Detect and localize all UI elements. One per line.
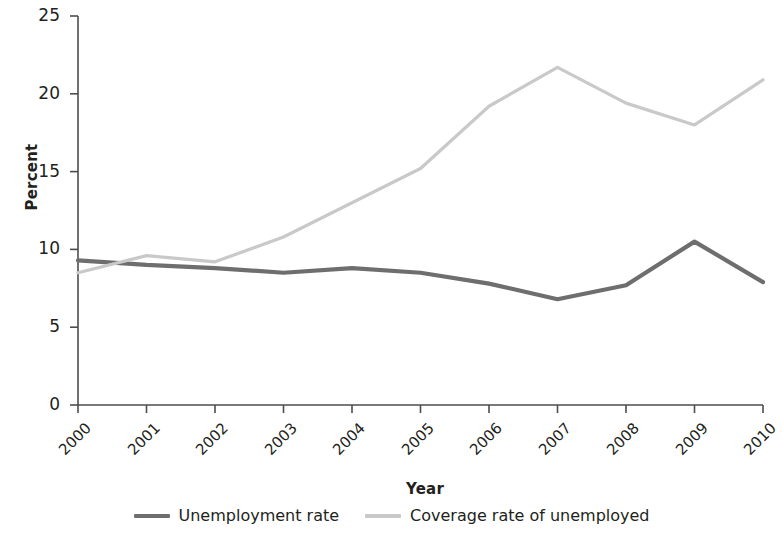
legend-swatch-coverage-rate	[365, 514, 401, 518]
chart-legend: Unemployment rate Coverage rate of unemp…	[0, 508, 783, 524]
legend-swatch-unemployment-rate	[134, 514, 170, 518]
y-axis-tick-label: 10	[14, 238, 60, 258]
y-axis-ticks	[70, 16, 78, 405]
y-axis-tick-label: 5	[14, 316, 60, 336]
line-chart: Percent 0510152025 200020012002200320042…	[0, 0, 783, 543]
plot-area	[0, 0, 783, 500]
legend-item-coverage-rate: Coverage rate of unemployed	[365, 508, 649, 524]
series-line-unemployment-rate	[78, 242, 763, 300]
x-axis-ticks	[78, 405, 763, 413]
y-axis-tick-label: 15	[14, 161, 60, 181]
x-axis-title: Year	[375, 480, 475, 498]
data-series-group	[78, 67, 763, 299]
y-axis-tick-label: 0	[14, 394, 60, 414]
legend-label-coverage-rate: Coverage rate of unemployed	[410, 508, 649, 524]
legend-item-unemployment-rate: Unemployment rate	[134, 508, 340, 524]
y-axis-tick-label: 25	[14, 5, 60, 25]
axis-lines	[78, 16, 763, 405]
series-line-coverage-rate-of-unemployed	[78, 67, 763, 272]
legend-label-unemployment-rate: Unemployment rate	[179, 508, 340, 524]
y-axis-tick-label: 20	[14, 83, 60, 103]
